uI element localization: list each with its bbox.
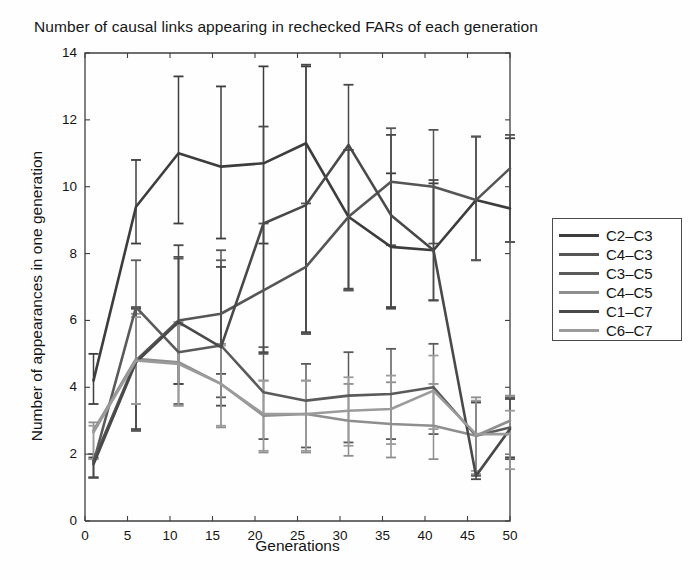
legend-item-C4-C5[interactable]: C4–C5 [559, 282, 653, 302]
legend-label: C2–C3 [606, 228, 653, 243]
legend-swatch-icon [559, 253, 599, 256]
legend-swatch-icon [559, 272, 599, 275]
errorbar-group-C2-C3 [89, 66, 516, 404]
series-line-C6-C7 [94, 361, 511, 435]
legend-item-C1-C7[interactable]: C1–C7 [559, 301, 653, 321]
axes-frame [85, 53, 510, 521]
errorbar-group-C3-C5 [89, 259, 516, 478]
legend-item-C3-C5[interactable]: C3–C5 [559, 263, 653, 283]
y-axis-label: Number of appearances in one generation [28, 96, 46, 496]
y-tick-label: 6 [51, 312, 77, 327]
legend-item-C6-C7[interactable]: C6–C7 [559, 320, 653, 340]
series-line-C1-C7 [94, 145, 511, 476]
figure-container: Number of causal links appearing in rech… [0, 0, 700, 581]
y-tick-label: 4 [51, 379, 77, 394]
series-line-C4-C3 [94, 168, 511, 461]
y-tick-label: 2 [51, 446, 77, 461]
legend-label: C3–C5 [606, 266, 653, 281]
legend-label: C4–C5 [606, 285, 653, 300]
legend-label: C4–C3 [606, 247, 653, 262]
legend-item-C4-C3[interactable]: C4–C3 [559, 244, 653, 264]
errorbar-group-C1-C7 [89, 65, 516, 480]
series-line-C4-C5 [94, 359, 511, 436]
y-tick-label: 14 [51, 45, 77, 60]
y-tick-label: 0 [51, 513, 77, 528]
legend-label: C1–C7 [606, 304, 653, 319]
legend-item-C2-C3[interactable]: C2–C3 [559, 225, 653, 245]
y-tick-label: 8 [51, 246, 77, 261]
legend: C2–C3C4–C3C3–C5C4–C5C1–C7C6–C7 [552, 218, 682, 341]
y-tick-label: 12 [51, 112, 77, 127]
legend-swatch-icon [559, 329, 599, 332]
legend-swatch-icon [559, 310, 599, 313]
x-axis-label: Generations [0, 537, 595, 555]
errorbar-group-C4-C3 [89, 128, 516, 477]
y-tick-label: 10 [51, 179, 77, 194]
legend-label: C6–C7 [606, 323, 653, 338]
legend-swatch-icon [559, 234, 599, 237]
legend-swatch-icon [559, 291, 599, 294]
